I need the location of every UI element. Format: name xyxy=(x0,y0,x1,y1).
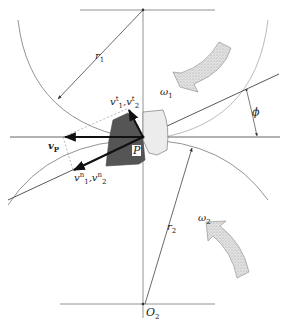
construction-dashed-2 xyxy=(63,137,73,170)
pitch-point xyxy=(142,136,145,139)
omega1-rotation-arrow xyxy=(173,42,231,92)
label-vt: vt1,vt2 xyxy=(110,96,139,110)
label-pitch-point: P xyxy=(132,145,141,156)
gear2-tooth xyxy=(143,110,168,155)
label-vp: vP xyxy=(48,141,59,153)
label-omega2: ω2 xyxy=(198,213,211,226)
label-vn: vn1,vn2 xyxy=(74,172,106,186)
label-r1: r1 xyxy=(95,51,104,64)
omega2-rotation-arrow xyxy=(206,221,249,278)
label-r2: r2 xyxy=(167,222,176,235)
label-omega1: ω1 xyxy=(160,87,173,100)
o2-center xyxy=(142,303,145,306)
gear-contact-diagram xyxy=(0,0,286,322)
o1-center xyxy=(142,9,145,12)
label-o2: O2 xyxy=(146,307,160,321)
label-phi: ϕ xyxy=(252,107,260,118)
